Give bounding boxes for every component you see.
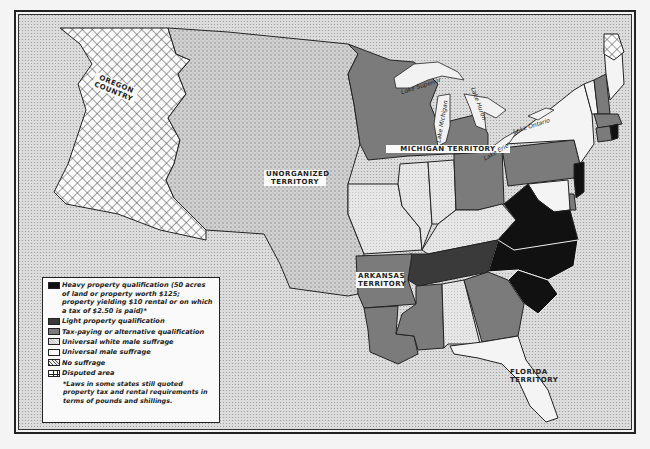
legend-item-white-male: Universal white male suffrage [48, 338, 214, 347]
label-arkansas-territory: ARKANSAS TERRITORY [356, 272, 404, 288]
swatch-blank-icon [48, 349, 60, 356]
legend-item-universal: Universal male suffrage [48, 348, 214, 357]
legend-footnote: *Laws in some states still quoted proper… [48, 380, 214, 405]
swatch-light-icon [48, 318, 60, 325]
legend-item-disputed: Disputed area [48, 369, 214, 378]
swatch-grid-icon [48, 370, 60, 377]
label-florida-territory: FLORIDA TERRITORY [508, 368, 548, 384]
swatch-tax-icon [48, 328, 60, 335]
swatch-heavy-icon [48, 282, 60, 289]
legend-item-no-suffrage: No suffrage [48, 359, 214, 368]
map-legend: Heavy property qualification (50 acres o… [42, 277, 220, 423]
label-unorganized-territory: UNORGANIZED TERRITORY [264, 170, 326, 186]
swatch-stipple-icon [48, 338, 60, 345]
legend-item-tax: Tax-paying or alternative qualification [48, 328, 214, 337]
legend-item-light: Light property qualification [48, 317, 214, 326]
swatch-cross-small-icon [48, 359, 60, 366]
legend-item-heavy: Heavy property qualification (50 acres o… [48, 281, 214, 315]
